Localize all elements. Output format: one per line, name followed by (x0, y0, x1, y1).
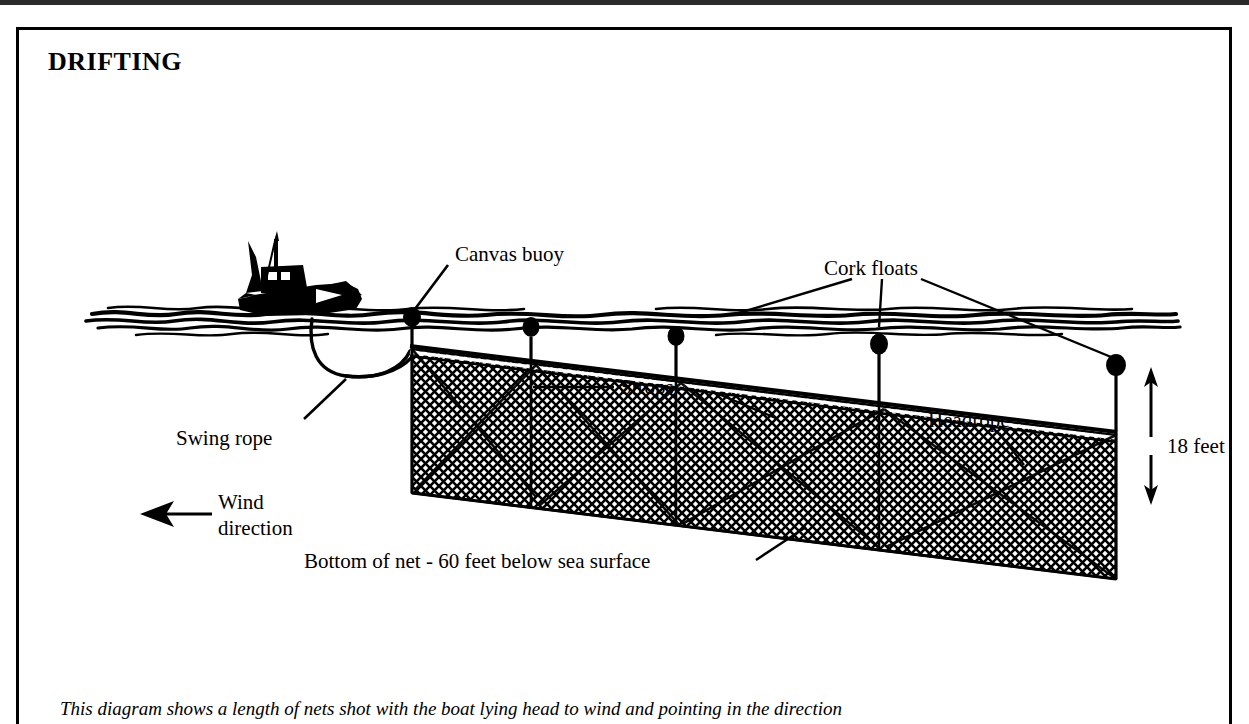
depth-dimension-18-feet: 18 feet (1144, 367, 1225, 505)
top-bleed-band (0, 0, 1249, 5)
canvas-buoy-label: Canvas buoy (455, 242, 565, 266)
cork-float-4 (870, 334, 888, 355)
figure-page: DRIFTING (0, 0, 1249, 724)
label-swing-rope: Swing rope (176, 379, 346, 450)
cork-floats-label: Cork floats (824, 256, 918, 280)
wind-label-line1: Wind (218, 490, 264, 514)
boat-silhouette (238, 231, 362, 316)
strops-label: Strops (620, 375, 674, 399)
cork-float-3 (668, 326, 685, 346)
headrope-label: Headrope (928, 408, 1010, 432)
label-net-bottom: Bottom of net - 60 feet below sea surfac… (304, 527, 806, 573)
wind-direction: Wind direction (140, 490, 293, 540)
figure-caption: This diagram shows a length of nets shot… (60, 698, 1220, 720)
cork-float-1 (403, 307, 421, 327)
net-bottom-label: Bottom of net - 60 feet below sea surfac… (304, 549, 650, 573)
drift-net-diagram: Canvas buoy Cork floats Swing rope Strop… (16, 27, 1232, 687)
wind-label-line2: direction (218, 516, 293, 540)
label-canvas-buoy: Canvas buoy (412, 242, 565, 313)
depth-label: 18 feet (1167, 434, 1225, 458)
net (410, 346, 1117, 579)
swing-rope-label: Swing rope (176, 426, 272, 450)
cork-float-2 (523, 317, 540, 337)
